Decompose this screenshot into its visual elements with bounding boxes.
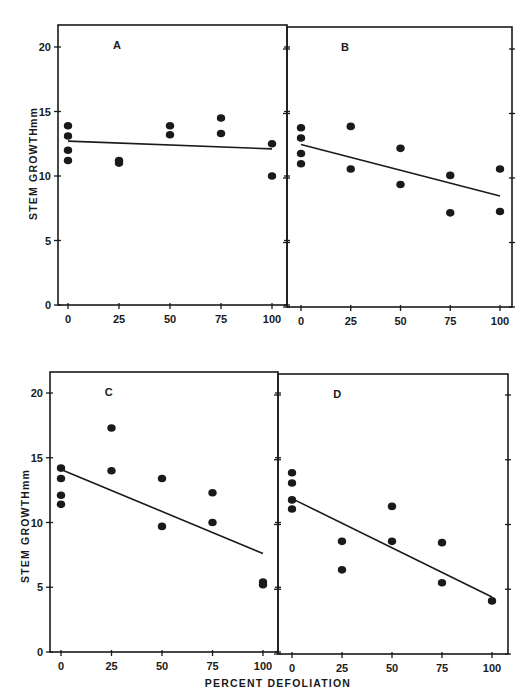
plot-frame: [287, 27, 512, 307]
regression-line: [292, 499, 492, 597]
y-axis-title-top: STEM GROWTH: [27, 127, 39, 220]
x-tick-label: 25: [336, 662, 348, 674]
data-point: [57, 475, 65, 483]
data-point: [268, 172, 276, 180]
data-point: [166, 131, 174, 139]
data-point: [288, 496, 296, 504]
y-tick-label: 10: [31, 517, 43, 529]
data-point: [438, 539, 446, 547]
y-tick-label: 0: [45, 299, 51, 311]
data-point: [64, 146, 72, 154]
x-tick-label: 50: [164, 313, 176, 325]
y-tick-label: 15: [31, 452, 43, 464]
x-tick-label: 100: [263, 313, 281, 325]
data-point: [158, 475, 166, 483]
data-point: [496, 165, 504, 173]
data-point: [64, 132, 72, 140]
panel-letter: A: [113, 39, 121, 51]
x-tick-label: 75: [444, 315, 456, 327]
x-tick-label: 75: [215, 313, 227, 325]
data-point: [64, 157, 72, 165]
data-point: [259, 581, 267, 589]
y-tick-label: 20: [39, 41, 51, 53]
data-point: [338, 566, 346, 574]
data-point: [158, 523, 166, 531]
panel-b: 0255075100B: [283, 27, 515, 327]
panel-a: 051015200255075100A: [39, 25, 290, 325]
x-tick-label: 50: [386, 662, 398, 674]
y-axis-unit-bottom: mm: [19, 469, 31, 490]
data-point: [396, 181, 404, 189]
data-point: [488, 597, 496, 605]
regression-line: [301, 144, 500, 196]
panel-letter: C: [105, 386, 113, 398]
x-tick-label: 100: [483, 662, 501, 674]
x-tick-label: 25: [113, 313, 125, 325]
y-tick-label: 20: [31, 387, 43, 399]
x-tick-label: 0: [298, 315, 304, 327]
x-tick-label: 75: [436, 662, 448, 674]
x-tick-label: 0: [65, 313, 71, 325]
data-point: [208, 489, 216, 497]
data-point: [288, 469, 296, 477]
y-tick-label: 15: [39, 106, 51, 118]
data-point: [57, 464, 65, 472]
data-point: [388, 503, 396, 511]
data-point: [217, 114, 225, 122]
x-tick-label: 25: [345, 315, 357, 327]
data-point: [107, 467, 115, 475]
data-point: [496, 208, 504, 216]
data-point: [166, 122, 174, 130]
data-point: [297, 134, 305, 142]
y-axis-unit-top: mm: [27, 107, 39, 128]
y-axis-title-bottom: STEM GROWTH: [19, 490, 31, 583]
data-point: [288, 479, 296, 487]
data-point: [57, 492, 65, 500]
y-tick-label: 5: [45, 235, 51, 247]
plot-frame: [278, 374, 508, 654]
y-tick-label: 10: [39, 170, 51, 182]
x-tick-label: 0: [289, 662, 295, 674]
data-point: [388, 538, 396, 546]
data-point: [446, 209, 454, 217]
data-point: [297, 124, 305, 132]
panel-letter: B: [341, 41, 349, 53]
regression-line: [68, 141, 272, 149]
data-point: [288, 505, 296, 513]
data-point: [446, 172, 454, 180]
x-tick-label: 50: [394, 315, 406, 327]
panel-c: 051015200255075100C: [31, 372, 281, 672]
x-tick-label: 25: [105, 660, 117, 672]
x-tick-label: 100: [254, 660, 272, 672]
data-point: [396, 145, 404, 153]
data-point: [57, 501, 65, 509]
data-point: [338, 538, 346, 546]
y-tick-label: 5: [37, 581, 43, 593]
panels: 051015200255075100A0255075100B0510152002…: [31, 25, 515, 674]
data-point: [297, 160, 305, 168]
data-point: [208, 519, 216, 527]
data-point: [347, 165, 355, 173]
panel-d: 0255075100D: [274, 374, 511, 674]
data-point: [107, 424, 115, 432]
panel-letter: D: [333, 388, 341, 400]
plot-frame: [58, 25, 287, 305]
figure: 051015200255075100A0255075100B0510152002…: [0, 0, 528, 698]
data-point: [268, 140, 276, 148]
x-tick-label: 75: [206, 660, 218, 672]
data-point: [64, 122, 72, 130]
x-axis-title: PERCENT DEFOLIATION: [205, 677, 351, 689]
data-point: [347, 123, 355, 131]
data-point: [438, 579, 446, 587]
data-point: [217, 130, 225, 138]
x-tick-label: 100: [491, 315, 509, 327]
x-tick-label: 0: [58, 660, 64, 672]
data-point: [297, 150, 305, 158]
y-tick-label: 0: [37, 646, 43, 658]
data-point: [115, 159, 123, 167]
x-tick-label: 50: [156, 660, 168, 672]
